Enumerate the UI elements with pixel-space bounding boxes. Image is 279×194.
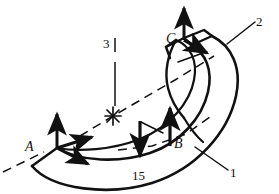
axis-2-leader bbox=[227, 22, 255, 44]
curved-bar-body bbox=[32, 30, 238, 190]
bar-inner-top-edge bbox=[57, 40, 195, 150]
center-asterisk-icon bbox=[105, 107, 121, 125]
label-point-c: C bbox=[166, 31, 176, 46]
figure-canvas: A B C 1 2 3 15 bbox=[0, 0, 279, 194]
curved-bar-figure: A B C 1 2 3 15 bbox=[0, 0, 279, 194]
label-point-a: A bbox=[24, 139, 34, 154]
a-axis-upper-right-arrow bbox=[57, 137, 92, 148]
label-point-b: B bbox=[174, 136, 183, 151]
axis-1-leader bbox=[195, 147, 228, 170]
bar-outer-bottom-edge bbox=[32, 36, 238, 190]
label-axis-1: 1 bbox=[230, 165, 237, 180]
c-axis-lower-right-arrow bbox=[184, 40, 207, 53]
label-axis-2: 2 bbox=[256, 14, 263, 29]
bar-end-face-a bbox=[32, 148, 57, 166]
leader-lines bbox=[141, 22, 255, 170]
label-load-value: 15 bbox=[132, 168, 145, 183]
frame-a bbox=[57, 114, 92, 164]
label-axis-3: 3 bbox=[103, 36, 110, 51]
centroidal-axis-dashed bbox=[3, 56, 214, 172]
